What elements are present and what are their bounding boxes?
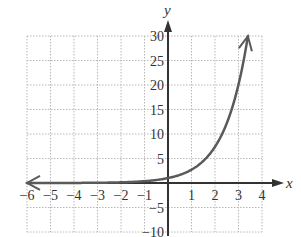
x-tick-label: 3	[235, 188, 242, 203]
y-tick-label: 30	[150, 29, 164, 44]
y-tick-label: 5	[157, 152, 164, 167]
y-tick-label: 10	[150, 127, 164, 142]
y-axis-label: y	[162, 2, 171, 18]
y-tick-label: 15	[150, 103, 164, 118]
y-tick-label: −10	[142, 225, 164, 237]
exponential-graph: −6−5−4−3−2−11234−10−551015202530 x y	[0, 0, 301, 237]
x-axis-arrow-icon	[272, 179, 284, 187]
x-tick-label: −4	[67, 188, 82, 203]
x-tick-label: 4	[259, 188, 266, 203]
x-tick-label: 1	[188, 188, 195, 203]
y-tick-label: 25	[150, 54, 164, 69]
x-tick-label: −3	[90, 188, 105, 203]
y-tick-label: −5	[149, 201, 164, 216]
curve	[27, 36, 252, 190]
x-tick-label: 2	[212, 188, 219, 203]
x-tick-label: −2	[114, 188, 129, 203]
y-tick-label: 20	[150, 78, 164, 93]
x-tick-label: −6	[20, 188, 35, 203]
y-axis-arrow-icon	[164, 20, 172, 32]
x-tick-label: −5	[43, 188, 58, 203]
x-axis-label: x	[285, 175, 293, 191]
